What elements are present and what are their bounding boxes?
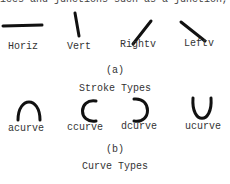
curve-label-ucurve: ucurve (185, 122, 221, 132)
stroke-label-horiz: Horiz (8, 42, 38, 52)
panel-label-a: (a) (0, 66, 230, 76)
vert-stroke-icon (75, 13, 79, 36)
curve-label-ccurve: ccurve (67, 123, 103, 133)
acurve-icon (18, 102, 40, 120)
ccurve-icon (83, 101, 97, 121)
stroke-label-rightv: Rightv (120, 40, 156, 50)
horiz-stroke-icon (3, 25, 42, 26)
stroke-label-vert: Vert (67, 42, 91, 52)
panel-label-b: (b) (0, 145, 230, 155)
caption-curve-types: Curve Types (0, 162, 230, 172)
ucurve-icon (193, 98, 211, 118)
curve-label-dcurve: dcurve (121, 122, 157, 132)
caption-stroke-types: Stroke Types (0, 84, 230, 94)
stroke-label-leftv: Leftv (184, 39, 214, 49)
dcurve-icon (134, 99, 148, 121)
curve-label-acurve: acurve (8, 124, 44, 134)
